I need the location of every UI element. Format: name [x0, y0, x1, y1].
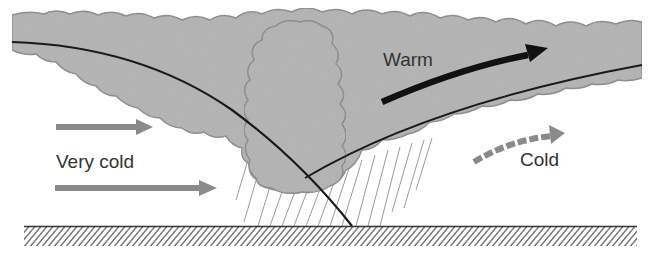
very-cold-air-label: Very cold: [56, 152, 134, 171]
very-cold-arrow-lower: [55, 180, 217, 196]
occluded-front-diagram: [0, 0, 660, 258]
cold-air-label: Cold: [520, 150, 559, 169]
ground-surface: [24, 227, 637, 247]
cumulus-tower: [244, 21, 346, 194]
warm-air-label: Warm: [383, 50, 433, 69]
very-cold-arrow-upper: [56, 119, 153, 135]
